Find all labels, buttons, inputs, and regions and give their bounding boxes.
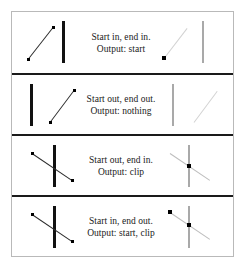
vertex-dot bbox=[31, 152, 34, 155]
scene-after bbox=[162, 136, 232, 195]
clip-boundary-line bbox=[172, 84, 174, 126]
clip-boundary-line bbox=[202, 21, 204, 63]
clip-boundary-line bbox=[62, 21, 65, 63]
case-caption: Start in, end out. Output: start, clip bbox=[74, 214, 168, 239]
vertex-dot bbox=[52, 26, 55, 29]
case-caption-line2: Output: nothing bbox=[74, 105, 168, 118]
case-caption: Start in, end in. Output: start bbox=[74, 30, 168, 55]
clip-boundary-line bbox=[53, 206, 56, 248]
case-row: Start in, end in. Output: start bbox=[12, 12, 233, 73]
input-line-segment bbox=[50, 90, 75, 123]
vertex-dot bbox=[187, 223, 191, 227]
case-caption-line1: Start out, end out. bbox=[87, 93, 156, 103]
vertex-dot bbox=[162, 56, 166, 60]
case-caption: Start out, end out. Output: nothing bbox=[74, 92, 168, 117]
scene-after bbox=[162, 75, 232, 134]
vertex-dot bbox=[27, 58, 30, 61]
input-line-segment bbox=[28, 27, 54, 60]
case-caption-line1: Start in, end in. bbox=[91, 31, 150, 41]
case-caption-line1: Start out, end in. bbox=[89, 154, 153, 164]
case-row: Start in, end out. Output: start, clip bbox=[12, 195, 233, 256]
vertex-dot bbox=[168, 210, 172, 214]
result-line-segment bbox=[164, 28, 188, 59]
input-line-segment bbox=[32, 153, 73, 181]
vertex-dot bbox=[71, 179, 74, 182]
vertex-dot bbox=[71, 240, 74, 243]
scene-after bbox=[162, 197, 232, 256]
case-caption: Start out, end in. Output: clip bbox=[74, 153, 168, 178]
case-row: Start out, end in. Output: clip bbox=[12, 134, 233, 195]
scene-after bbox=[162, 12, 232, 73]
case-caption-line2: Output: start, clip bbox=[74, 227, 168, 240]
clipping-cases-figure: Start in, end in. Output: start Start ou… bbox=[11, 11, 234, 257]
vertex-dot bbox=[49, 121, 52, 124]
case-caption-line2: Output: clip bbox=[74, 166, 168, 179]
case-row: Start out, end out. Output: nothing bbox=[12, 73, 233, 134]
result-line-segment bbox=[194, 91, 218, 123]
vertex-dot bbox=[187, 164, 191, 168]
input-line-segment bbox=[32, 214, 73, 242]
clip-boundary-line bbox=[53, 145, 56, 187]
clip-boundary-line bbox=[30, 84, 33, 126]
case-caption-line2: Output: start bbox=[74, 43, 168, 56]
vertex-dot bbox=[31, 213, 34, 216]
case-caption-line1: Start in, end out. bbox=[89, 215, 153, 225]
